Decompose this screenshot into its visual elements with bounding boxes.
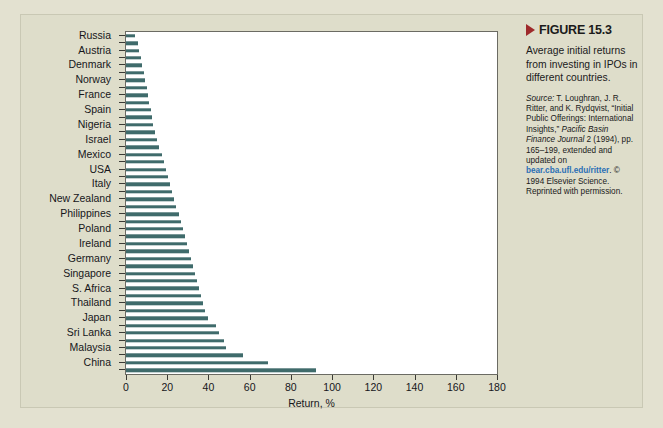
y-axis-label: Russia: [79, 30, 111, 40]
bar-row: [126, 285, 497, 292]
bar: [126, 123, 153, 126]
bar-row: [126, 218, 497, 225]
bar-row: [126, 166, 497, 173]
bars-layer: [126, 32, 497, 374]
y-axis-label: Denmark: [68, 59, 111, 69]
bar-row: [126, 129, 497, 136]
y-axis-label: Nigeria: [78, 119, 111, 129]
plot-area: [125, 31, 498, 375]
bar-row: [126, 114, 497, 121]
x-axis-tick: [456, 375, 457, 380]
x-axis-tick: [332, 375, 333, 380]
bar: [126, 324, 216, 327]
bar-row: [126, 225, 497, 232]
bar: [126, 257, 191, 260]
x-axis-tick-label: 140: [406, 381, 424, 393]
bar-row: [126, 262, 497, 269]
bar-row: [126, 99, 497, 106]
bar-row: [126, 255, 497, 262]
bar-row: [126, 136, 497, 143]
bar-row: [126, 144, 497, 151]
y-axis-label: USA: [89, 164, 111, 174]
bar: [126, 287, 199, 290]
y-axis-label: Sri Lanka: [67, 327, 111, 337]
y-axis-labels: RussiaAustriaDenmarkNorwayFranceSpainNig…: [21, 31, 121, 375]
figure-sidebar: FIGURE 15.3 Average initial returns from…: [526, 15, 644, 409]
bar-row: [126, 39, 497, 46]
y-axis-label: Japan: [82, 312, 111, 322]
bar-row: [126, 344, 497, 351]
x-axis-tick-label: 160: [447, 381, 465, 393]
y-axis-label: France: [78, 89, 111, 99]
bar: [126, 198, 174, 201]
y-axis-label: Spain: [84, 104, 111, 114]
bar-row: [126, 337, 497, 344]
y-axis-label: New Zealand: [49, 193, 111, 203]
bar-row: [126, 84, 497, 91]
bar: [126, 86, 147, 89]
figure-card: RussiaAustriaDenmarkNorwayFranceSpainNig…: [20, 14, 643, 408]
bar-row: [126, 196, 497, 203]
bar: [126, 41, 138, 44]
bar: [126, 146, 159, 149]
x-axis-tick-label: 60: [244, 381, 256, 393]
x-axis-tick: [208, 375, 209, 380]
bar-row: [126, 300, 497, 307]
bar-row: [126, 315, 497, 322]
bar: [126, 153, 162, 156]
bar-row: [126, 69, 497, 76]
bar-row: [126, 62, 497, 69]
triangle-right-icon: [526, 24, 535, 36]
source-link[interactable]: bear.cba.ufl.edu/ritter: [526, 166, 609, 175]
bar: [126, 49, 139, 52]
x-axis-tick-label: 80: [285, 381, 297, 393]
y-axis-label: S. Africa: [72, 283, 111, 293]
figure-source: Source: T. Loughran, J. R. Ritter, and K…: [526, 94, 638, 198]
bar-row: [126, 181, 497, 188]
y-axis-label: Philippines: [60, 208, 111, 218]
bar-row: [126, 367, 497, 374]
bar: [126, 212, 179, 215]
bar-row: [126, 32, 497, 39]
bar: [126, 93, 148, 96]
bar: [126, 131, 155, 134]
x-axis-tick: [497, 375, 498, 380]
x-axis-tick: [415, 375, 416, 380]
bar-row: [126, 248, 497, 255]
y-axis-label: Ireland: [79, 238, 111, 248]
bar-row: [126, 47, 497, 54]
figure-root: RussiaAustriaDenmarkNorwayFranceSpainNig…: [0, 0, 663, 428]
y-axis-label: Malaysia: [70, 342, 111, 352]
bar: [126, 339, 224, 342]
bar-row: [126, 307, 497, 314]
x-axis-tick-label: 120: [365, 381, 383, 393]
x-axis-tick-label: 180: [488, 381, 506, 393]
bar: [126, 56, 141, 59]
bar-row: [126, 54, 497, 61]
bar: [126, 369, 316, 372]
bar-row: [126, 277, 497, 284]
bar: [126, 242, 187, 245]
bar: [126, 331, 219, 334]
x-axis-tick: [126, 375, 127, 380]
bar: [126, 279, 197, 282]
bar: [126, 317, 208, 320]
bar: [126, 79, 145, 82]
figure-caption: Average initial returns from investing i…: [526, 44, 638, 85]
bar-row: [126, 359, 497, 366]
bar-row: [126, 151, 497, 158]
bar: [126, 264, 193, 267]
bar-row: [126, 158, 497, 165]
y-axis-label: Israel: [85, 134, 111, 144]
bar: [126, 71, 144, 74]
bar: [126, 250, 189, 253]
bar-row: [126, 121, 497, 128]
bar: [126, 309, 205, 312]
bar: [126, 168, 166, 171]
bar: [126, 190, 172, 193]
bar: [126, 302, 203, 305]
bar: [126, 346, 226, 349]
bar-row: [126, 352, 497, 359]
figure-number-label: FIGURE 15.3: [539, 23, 612, 37]
bar: [126, 183, 170, 186]
